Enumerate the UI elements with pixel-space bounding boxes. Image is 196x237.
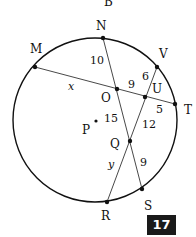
segment-oq: 15: [104, 112, 118, 125]
label-r: R: [101, 209, 111, 223]
label-v: V: [158, 47, 168, 61]
partial-label-b: B: [104, 0, 113, 9]
label-n: N: [96, 19, 107, 33]
point-n: [101, 36, 105, 40]
circle-chords-diagram: B N M V T O U Q S R P 10 x 9 6 5 15 12 y…: [0, 0, 196, 237]
label-q: Q: [110, 137, 120, 151]
label-m: M: [30, 42, 42, 56]
segment-qs: 9: [140, 156, 147, 169]
label-s: S: [144, 199, 152, 213]
segment-ou: 9: [128, 78, 135, 91]
point-m: [33, 65, 37, 69]
point-q: [128, 139, 132, 143]
label-p: P: [82, 123, 90, 137]
point-v: [155, 65, 159, 69]
label-t: T: [184, 103, 192, 117]
segment-uq: 12: [142, 118, 156, 131]
segment-qr: y: [107, 158, 115, 171]
point-o: [115, 87, 119, 91]
problem-number-badge: 17: [147, 215, 176, 235]
point-p: [94, 119, 97, 122]
segment-mo: x: [68, 80, 75, 93]
segment-ut: 5: [156, 103, 163, 116]
segment-vu: 6: [142, 70, 149, 83]
point-r: [105, 200, 109, 204]
point-t: [173, 102, 177, 106]
label-u: U: [152, 82, 162, 96]
label-o: O: [101, 91, 111, 105]
point-s: [140, 187, 144, 191]
point-u: [143, 95, 147, 99]
segment-no: 10: [90, 54, 104, 67]
